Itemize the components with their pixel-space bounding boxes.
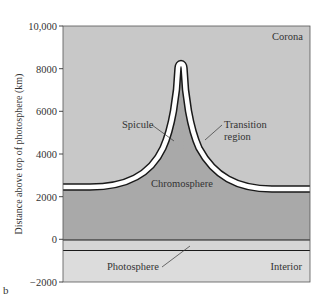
tick-label: 4000 [36,149,57,160]
chromosphere-label: Chromosphere [151,178,213,189]
tick-label: 6000 [36,106,57,117]
tick-label: 10,000 [28,21,57,32]
spicule-label: Spicule [122,119,154,130]
y-axis-ticks [59,26,63,282]
photosphere-label: Photosphere [107,261,159,272]
tick-label: −2000 [30,277,57,288]
tick-label: 0 [52,234,57,245]
corona-label: Corona [272,31,303,42]
y-axis-title: Distance above top of photosphere (km) [13,74,25,235]
y-axis-tick-labels: 10,000 8000 6000 4000 2000 0 −2000 [28,21,57,288]
solar-atmosphere-diagram: 10,000 8000 6000 4000 2000 0 −2000 Dista… [0,0,325,301]
interior-label: Interior [271,261,303,272]
transition-region-label-2: region [224,131,252,142]
transition-region-label-1: Transition [224,119,268,130]
panel-letter: b [3,284,9,296]
tick-label: 2000 [36,192,57,203]
tick-label: 8000 [36,64,57,75]
